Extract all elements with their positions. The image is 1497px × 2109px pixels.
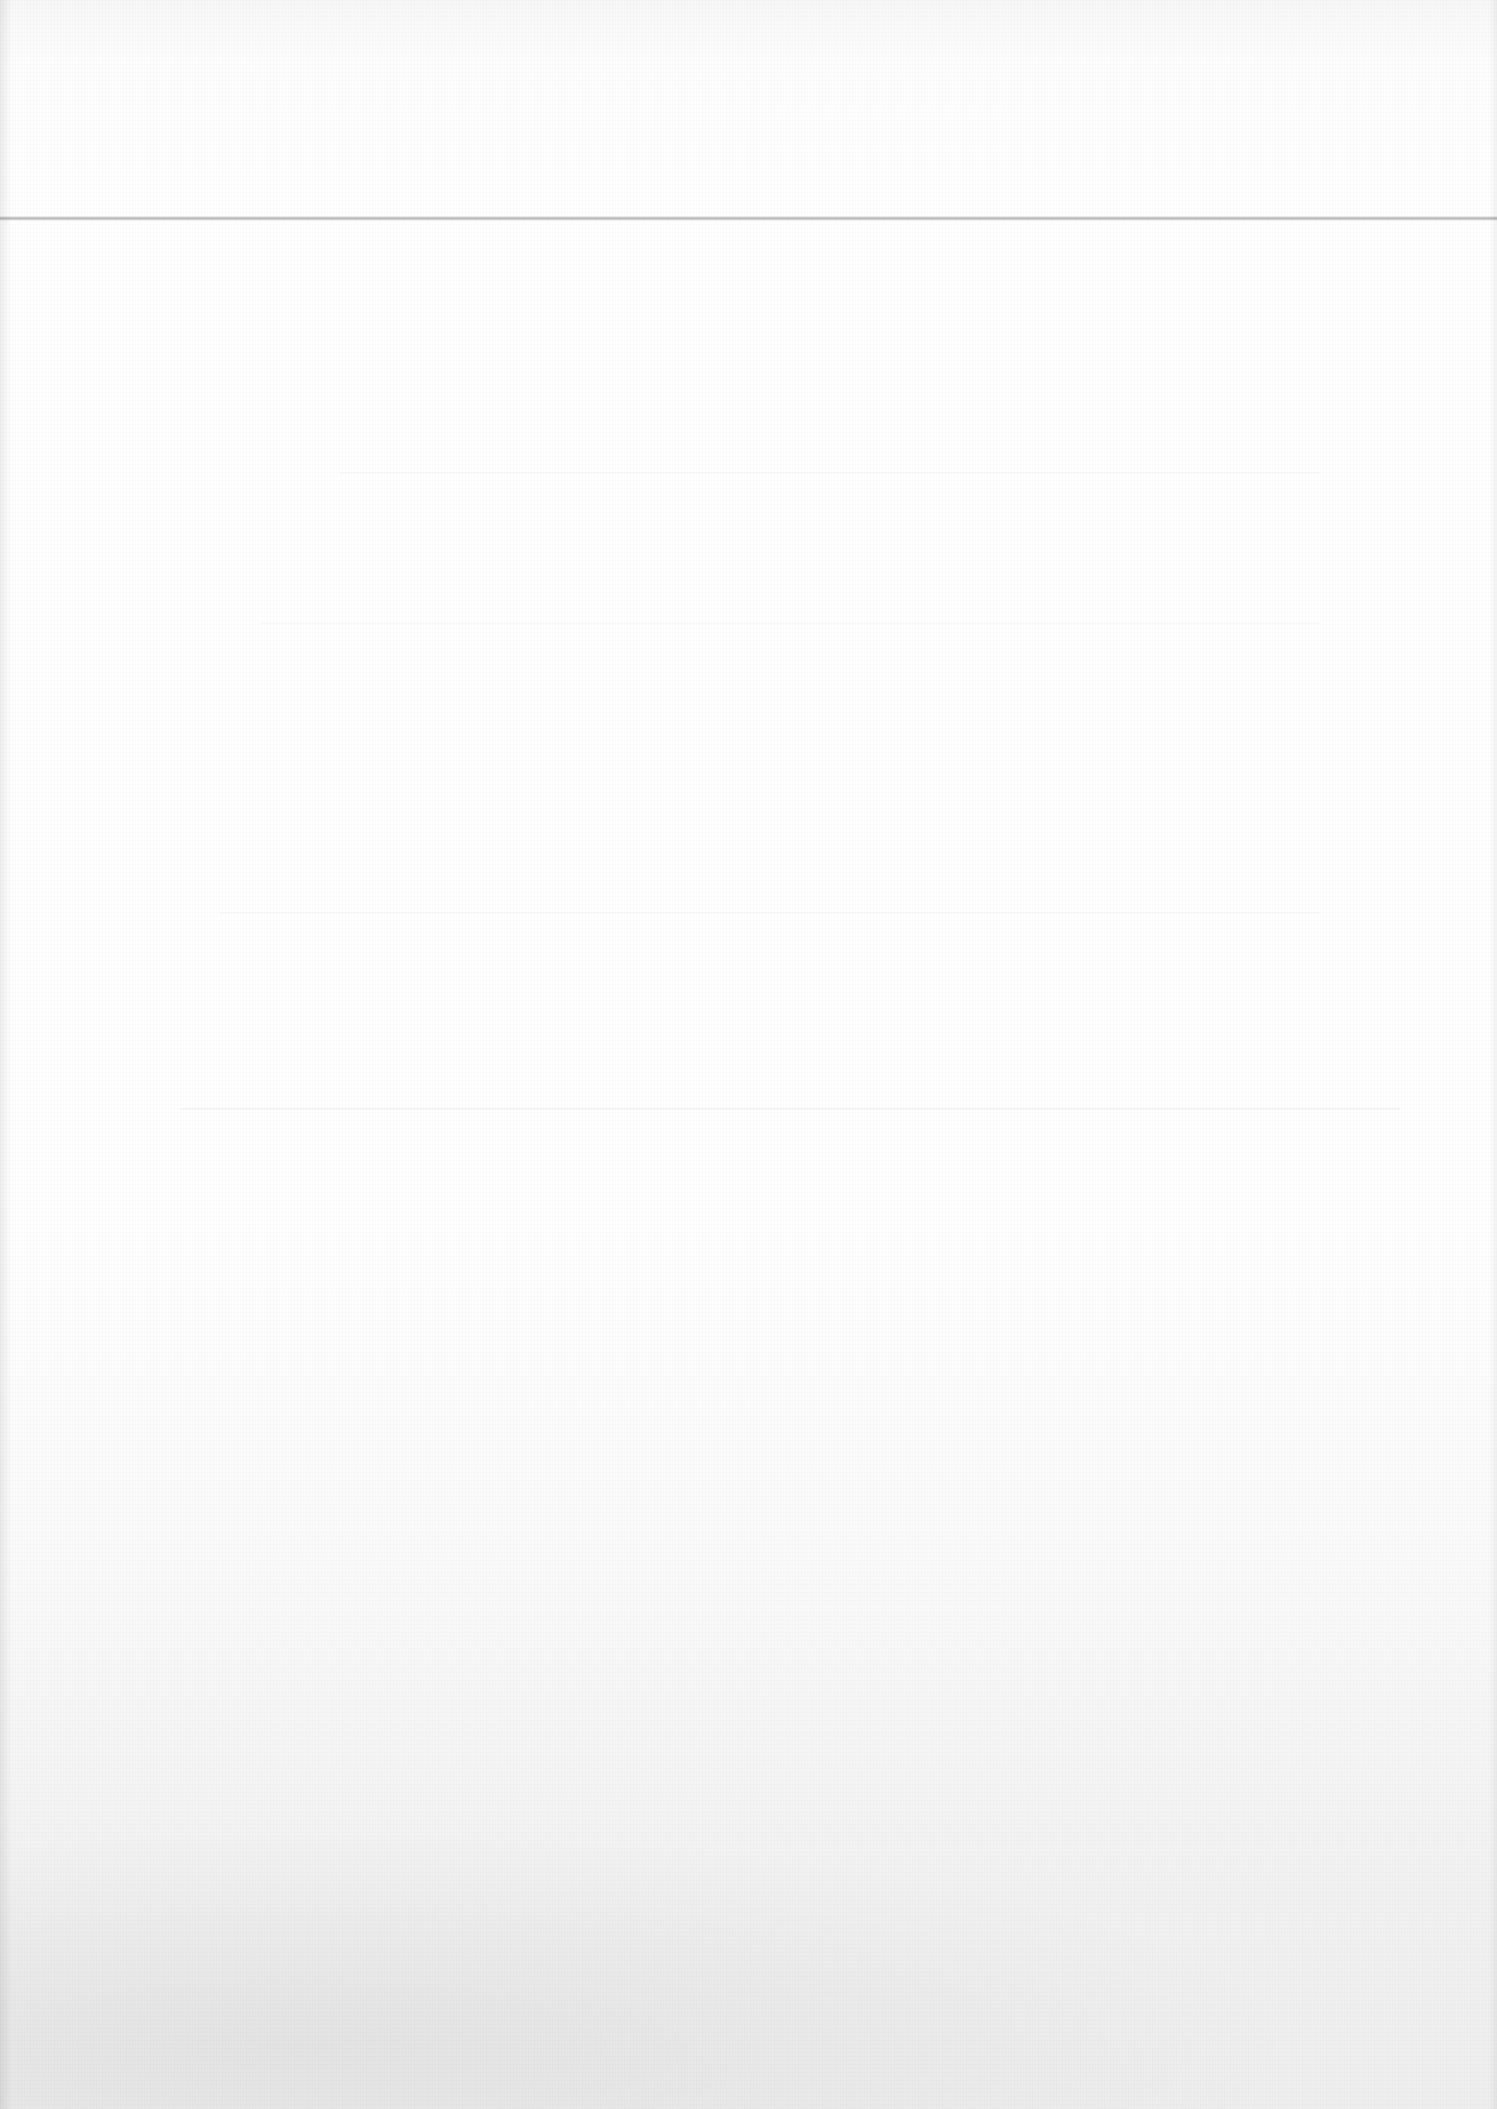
show-through-ghost-line [340, 472, 1320, 474]
show-through-ghost-line [220, 912, 1320, 914]
scanned-blank-page [0, 0, 1497, 2109]
show-through-ghost-line [260, 622, 1320, 624]
paper-fold-crease [0, 216, 1497, 221]
paper-bottom-shading [0, 1789, 1497, 2109]
show-through-ghost-line [180, 1108, 1400, 1110]
